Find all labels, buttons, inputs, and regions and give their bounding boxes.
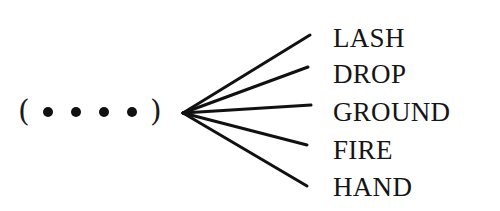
word-5: HAND: [333, 174, 412, 201]
word-2: DROP: [333, 61, 406, 88]
word-3: GROUND: [333, 99, 450, 126]
word-4: FIRE: [333, 137, 393, 164]
word-puzzle-diagram: ( ) LASH DROP GROUND FIRE HAND: [0, 0, 500, 211]
connector-line-5: [183, 113, 307, 186]
word-1: LASH: [333, 25, 405, 52]
connector-line-4: [183, 113, 307, 145]
